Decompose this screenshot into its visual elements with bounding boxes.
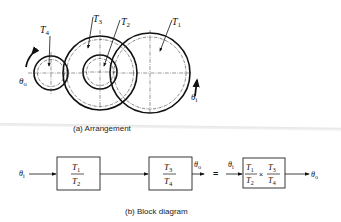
leader-t4	[49, 36, 50, 66]
caption-arrangement: (a) Arrangement	[73, 124, 132, 133]
block-combined-ratio: T1 T2 × T3 T4	[243, 158, 285, 188]
label-t2: T2	[121, 16, 131, 29]
block-diagram: θi T1 T2 T3 T4 θo = θi T1 T2	[19, 157, 318, 216]
gear-train-figure: T4 T3 T2 T1 θo θi (a) Arrangement θi T1 …	[0, 0, 341, 222]
arrangement-drawing: T4 T3 T2 T1 θo θi (a) Arrangement	[19, 13, 197, 133]
block2-output-label: θo	[194, 160, 201, 170]
label-theta-o: θo	[19, 76, 27, 87]
block-input-label: θi	[19, 169, 25, 179]
equals-sign: =	[213, 169, 218, 179]
caption-block-diagram: (b) Block diagram	[125, 207, 188, 216]
combined-input-label: θi	[228, 160, 234, 170]
block-t3-over-t4: T3 T4	[149, 157, 192, 190]
multiply-sign: ×	[259, 171, 263, 178]
output-rotation-arrow-icon	[26, 54, 32, 67]
final-output-label: θo	[311, 170, 318, 180]
block-t1-over-t2: T1 T2	[57, 157, 100, 190]
label-theta-i: θi	[191, 92, 197, 103]
label-t4: T4	[40, 24, 50, 37]
label-t3: T3	[93, 13, 103, 26]
label-t1: T1	[172, 16, 182, 29]
